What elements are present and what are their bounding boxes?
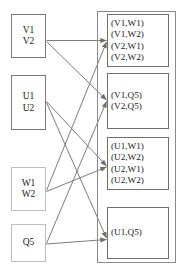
input-v-line-1: V1 xyxy=(23,25,35,36)
input-q-line-1: Q5 xyxy=(23,237,35,248)
input-box-v[interactable]: V1 V2 xyxy=(11,14,46,58)
result-r2-line-2: (V2,Q5) xyxy=(111,101,142,112)
result-box-r3[interactable]: (U1,W1) (U2,W2) (U2,W1) (U2,W2) xyxy=(107,137,169,190)
result-r3-line-2: (U2,W2) xyxy=(111,152,144,163)
result-box-r4[interactable]: (U1,Q5) xyxy=(107,207,169,259)
input-w-line-2: W2 xyxy=(22,189,36,200)
result-r3-line-3: (U2,W1) xyxy=(111,164,144,175)
result-r1-line-3: (V2,W1) xyxy=(111,41,144,52)
input-box-u[interactable]: U1 U2 xyxy=(11,75,46,130)
result-r4-line-1: (U1,Q5) xyxy=(111,227,142,238)
result-r3-line-1: (U1,W1) xyxy=(111,141,144,152)
input-v-line-2: V2 xyxy=(23,36,35,47)
result-r1-line-1: (V1,W1) xyxy=(111,18,144,29)
input-box-q[interactable]: Q5 xyxy=(11,224,46,262)
result-r3-line-4: (U2,W2) xyxy=(111,175,144,186)
input-w-line-1: W1 xyxy=(22,178,36,189)
input-u-line-1: U1 xyxy=(23,91,35,102)
result-box-r2[interactable]: (V1,Q5) (V2,Q5) xyxy=(107,73,169,129)
result-r1-line-2: (V1,W2) xyxy=(111,29,144,40)
result-r2-line-1: (V1,Q5) xyxy=(111,90,142,101)
result-r1-line-4: (V2,W2) xyxy=(111,52,144,63)
input-box-w[interactable]: W1 W2 xyxy=(11,167,46,211)
result-box-r1[interactable]: (V1,W1) (V1,W2) (V2,W1) (V2,W2) xyxy=(107,14,169,67)
input-u-line-2: U2 xyxy=(23,103,35,114)
diagram-canvas: V1 V2 U1 U2 W1 W2 Q5 (V1,W1) (V1,W2) (V2… xyxy=(0,0,184,275)
